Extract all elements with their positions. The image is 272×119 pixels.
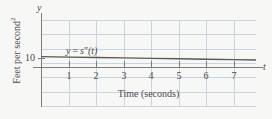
y-axis-title: Feet per second2 <box>11 1 22 101</box>
curve-equation-label: y=s″(t) <box>66 45 97 56</box>
y-axis-title-exponent: 2 <box>9 17 17 21</box>
acceleration-graph-figure: y t 1234567 10 y=s″(t) Time (seconds) Fe… <box>0 0 272 119</box>
curve-label-equals: = <box>70 45 80 56</box>
plot-area <box>0 0 272 119</box>
y-axis-title-text: Feet per second <box>11 21 22 84</box>
acceleration-line <box>41 57 256 60</box>
curve-label-argument: (t) <box>88 45 97 56</box>
x-axis-title: Time (seconds) <box>41 88 256 100</box>
